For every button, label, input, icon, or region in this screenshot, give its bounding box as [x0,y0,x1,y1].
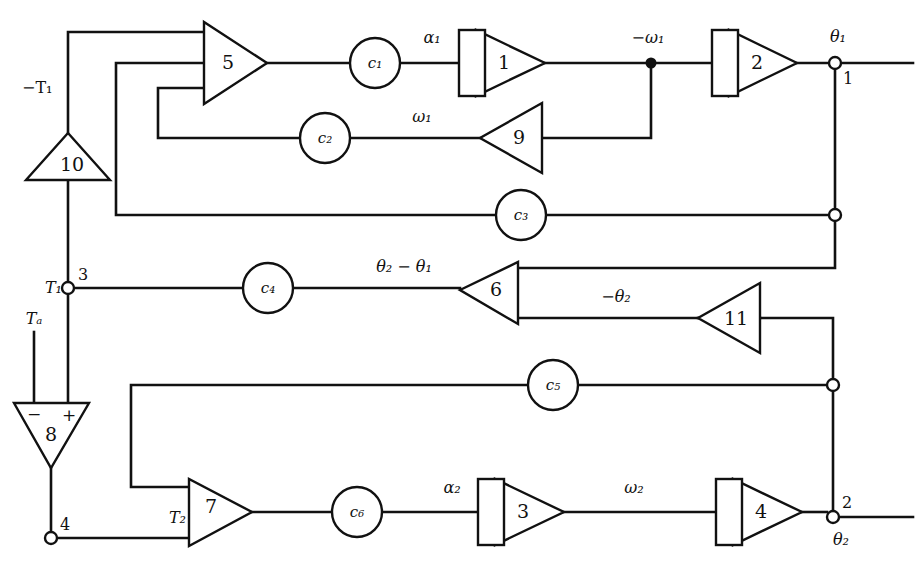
integrator-1-rect[interactable] [459,30,485,96]
integrator-1[interactable]: 1 [459,30,545,96]
integrator-4-triangle[interactable] [733,479,802,545]
label-terminal-3: 3 [78,265,88,284]
wire-negT1-to-amp5 [68,32,204,133]
label-neg-theta2: −θ₂ [601,287,630,306]
label-Ta: Tₐ [26,309,43,328]
pot-c6-label: c₆ [350,503,364,521]
integrator-2[interactable]: 2 [712,30,797,96]
pot-c3[interactable]: c₃ [496,190,546,240]
junction-neg-omega1 [647,59,656,68]
amp-8-label: 8 [45,423,57,445]
amp-6[interactable]: 6 [460,262,518,324]
label-theta-difference: θ₂ − θ₁ [376,257,432,276]
pot-c5-label: c₅ [546,376,560,394]
integrator-1-triangle[interactable] [476,30,545,96]
block-diagram-svg: 5 c₁ 1 2 9 c₂ c₃ 10 c₄ [0,0,915,569]
amp-5-triangle[interactable] [204,22,267,104]
label-alpha1: α₁ [423,28,440,47]
label-neg-T1: −T₁ [22,78,53,97]
label-terminal-2: 2 [842,493,852,512]
amp-7[interactable]: 7 [189,479,252,546]
junction-node-theta2-c5[interactable] [827,379,839,391]
label-alpha2: α₂ [443,478,460,497]
label-omega1: ω₁ [412,107,431,126]
label-theta2: θ₂ [833,530,849,549]
amp-5[interactable]: 5 [204,22,267,104]
terminal-node-3[interactable] [62,282,74,294]
amp-7-label: 7 [205,495,217,517]
amp-8[interactable]: − + 8 [14,403,89,468]
integrator-4-rect[interactable] [716,479,742,545]
integrator-3-label: 3 [517,500,529,522]
integrator-4[interactable]: 4 [716,479,802,545]
integrator-3-triangle[interactable] [495,479,564,545]
pot-c1-label: c₁ [368,54,382,72]
terminal-node-2[interactable] [827,511,839,523]
label-T2: T₂ [169,508,186,527]
label-omega2: ω₂ [624,478,643,497]
amp-10[interactable]: 10 [26,133,110,180]
amp-6-label: 6 [490,278,502,300]
amp-9[interactable]: 9 [480,103,542,173]
terminal-node-1[interactable] [829,57,841,69]
integrator-1-label: 1 [498,51,510,73]
label-terminal-1: 1 [843,69,853,88]
amp-7-triangle[interactable] [189,479,252,546]
pot-c6[interactable]: c₆ [332,487,382,537]
amp-5-label: 5 [222,51,234,73]
integrator-2-label: 2 [751,51,763,73]
amp-11[interactable]: 11 [698,283,760,353]
label-T1: T₁ [45,278,62,297]
integrator-3-rect[interactable] [478,479,504,545]
integrator-4-label: 4 [755,500,767,522]
amp-11-label: 11 [724,307,748,329]
wire-negomega1-to-amp9 [542,63,651,138]
amp-8-plus-sign: + [62,405,76,425]
amp-10-label: 10 [60,153,84,175]
amp-8-minus-sign: − [27,404,41,424]
wire-node1b-to-amp6-top [518,221,835,268]
pot-c2-label: c₂ [318,129,332,147]
wire-c2-feedback [158,88,300,138]
pot-c4[interactable]: c₄ [243,263,293,313]
pot-c4-label: c₄ [261,279,275,297]
pot-c5[interactable]: c₅ [528,360,578,410]
amp-9-label: 9 [513,126,525,148]
pot-c3-label: c₃ [514,206,528,224]
diagram-canvas: 5 c₁ 1 2 9 c₂ c₃ 10 c₄ [0,0,915,569]
amp-9-triangle[interactable] [480,103,542,173]
wire-c5-to-amp7-top [131,385,528,487]
junction-node-theta1-c3[interactable] [829,209,841,221]
label-terminal-4: 4 [60,515,70,534]
integrator-2-rect[interactable] [712,30,738,96]
label-neg-omega1: −ω₁ [632,28,665,47]
pot-c1[interactable]: c₁ [350,38,400,88]
integrator-3[interactable]: 3 [478,479,564,545]
pot-c2[interactable]: c₂ [300,113,350,163]
node-group [45,57,841,544]
label-theta1: θ₁ [830,27,846,46]
terminal-node-4[interactable] [45,532,57,544]
